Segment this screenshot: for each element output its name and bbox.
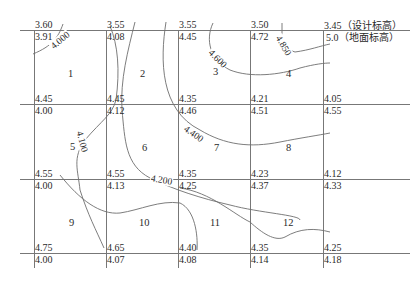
- node-0-1-design: 3.55: [107, 20, 125, 30]
- node-3-2-design: 4.40: [179, 243, 197, 253]
- node-0-2-ground: 4.45: [179, 32, 197, 42]
- node-3-0-design: 4.75: [35, 243, 53, 253]
- node-3-0-ground: 4.00: [35, 255, 53, 265]
- node-0-3-design: 3.50: [251, 20, 269, 30]
- node-1-1-ground: 4.12: [107, 106, 125, 116]
- node-0-1-ground: 4.08: [107, 32, 125, 42]
- cell-11: 11: [210, 217, 220, 228]
- node-0-0-ground: 3.91: [35, 32, 53, 42]
- cell-6: 6: [142, 142, 147, 153]
- node-2-2-ground: 4.25: [179, 181, 197, 191]
- legend-design-elevation: 3.45（设计标高）: [324, 20, 402, 31]
- node-2-4-ground: 4.33: [324, 181, 342, 191]
- node-0-0-design: 3.60: [35, 20, 53, 30]
- cell-5: 5: [70, 141, 75, 152]
- node-2-3-ground: 4.37: [251, 181, 269, 191]
- cell-2: 2: [140, 68, 145, 79]
- node-1-4-ground: 4.55: [324, 106, 342, 116]
- node-3-4-ground: 4.18: [324, 255, 342, 265]
- node-3-2-ground: 4.08: [179, 255, 197, 265]
- node-2-0-design: 4.55: [35, 169, 53, 179]
- node-2-1-ground: 4.13: [107, 181, 125, 191]
- node-1-0-ground: 4.00: [35, 106, 53, 116]
- node-0-2-design: 3.55: [179, 20, 197, 30]
- node-1-1-design: 4.45: [107, 94, 125, 104]
- cell-9: 9: [69, 217, 74, 228]
- node-1-2-ground: 4.46: [179, 106, 197, 116]
- node-3-4-design: 4.25: [324, 243, 342, 253]
- node-1-4-design: 4.05: [324, 94, 342, 104]
- node-3-1-design: 4.65: [107, 243, 125, 253]
- node-1-0-design: 4.45: [35, 94, 53, 104]
- node-2-3-design: 4.23: [251, 169, 269, 179]
- node-2-0-ground: 4.00: [35, 181, 53, 191]
- node-1-3-ground: 4.51: [251, 106, 269, 116]
- cell-4: 4: [286, 68, 291, 79]
- node-3-3-ground: 4.14: [251, 255, 269, 265]
- cell-1: 1: [68, 68, 73, 79]
- contour-lower-right: [180, 188, 330, 238]
- node-2-2-design: 4.35: [179, 169, 197, 179]
- cell-8: 8: [286, 142, 291, 153]
- node-2-1-design: 4.55: [107, 169, 125, 179]
- cell-12: 12: [283, 217, 294, 228]
- node-0-3-ground: 4.72: [251, 32, 269, 42]
- cell-7: 7: [214, 142, 219, 153]
- node-2-4-design: 4.12: [324, 169, 342, 179]
- node-1-3-design: 4.21: [251, 94, 269, 104]
- node-3-1-ground: 4.07: [107, 255, 125, 265]
- contour-lower-left: [60, 175, 197, 250]
- node-3-3-design: 4.35: [251, 243, 269, 253]
- cell-10: 10: [139, 217, 150, 228]
- legend-ground-elevation: 5.0（地面标高）: [326, 32, 399, 43]
- cell-3: 3: [213, 66, 218, 77]
- node-1-2-design: 4.35: [179, 94, 197, 104]
